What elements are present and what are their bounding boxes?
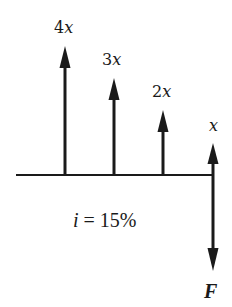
future-value-label: F — [204, 281, 217, 301]
cash-flow-diagram: 4x 3x 2x x i = 15% F — [0, 0, 232, 307]
variable: x — [209, 116, 218, 135]
cash-flow-arrow-period-2 — [109, 78, 120, 175]
variable: x — [64, 18, 73, 37]
arrow-up-icon — [60, 46, 71, 68]
interest-rate-symbol: i — [73, 209, 79, 231]
coefficient: 3 — [102, 50, 112, 69]
cash-flow-label-period-4: x — [209, 118, 218, 134]
arrow-down-icon — [208, 248, 219, 271]
variable: x — [112, 50, 121, 69]
coefficient: 2 — [152, 82, 162, 101]
equals-sign: = — [84, 209, 95, 231]
variable: x — [162, 82, 171, 101]
interest-rate-value: 15% — [100, 209, 137, 231]
arrow-up-icon — [208, 143, 219, 164]
interest-rate-label: i = 15% — [73, 210, 137, 230]
arrow-up-icon — [158, 110, 169, 132]
cash-flow-arrow-period-1 — [60, 46, 71, 175]
future-value-arrow — [208, 175, 219, 271]
cash-flow-svg — [0, 0, 232, 307]
cash-flow-arrow-period-4 — [208, 143, 219, 175]
cash-flow-label-period-2: 3x — [102, 52, 121, 68]
coefficient: 4 — [54, 18, 64, 37]
cash-flow-label-period-3: 2x — [152, 84, 171, 100]
arrow-up-icon — [109, 78, 120, 100]
cash-flow-label-period-1: 4x — [54, 20, 73, 36]
cash-flow-arrow-period-3 — [158, 110, 169, 175]
